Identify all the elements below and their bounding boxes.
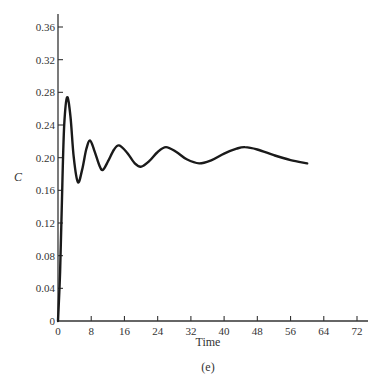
y-tick-label: 0.12	[36, 217, 55, 229]
figure-caption: (e)	[201, 360, 214, 374]
x-tick-label: 72	[352, 325, 363, 337]
y-tick-label: 0.20	[36, 152, 56, 164]
y-tick-label: 0.04	[36, 282, 56, 294]
y-tick-label: 0.16	[36, 184, 56, 196]
x-tick-label: 64	[318, 325, 330, 337]
x-axis-label: Time	[196, 335, 221, 349]
y-tick-label: 0.24	[36, 119, 56, 131]
x-tick-label: 16	[119, 325, 131, 337]
y-tick-label: 0.08	[36, 250, 56, 262]
x-tick-label: 48	[252, 325, 264, 337]
x-tick-label: 8	[88, 325, 94, 337]
x-tick-label: 0	[55, 325, 61, 337]
chart: 00.040.080.120.160.200.240.280.320.36 08…	[0, 0, 384, 382]
y-tick-label: 0.36	[36, 21, 56, 33]
y-axis-label: C	[14, 170, 23, 184]
data-line-c	[58, 97, 307, 321]
x-axis-ticks: 081624324048566472	[55, 316, 362, 337]
x-tick-label: 24	[152, 325, 164, 337]
y-tick-label: 0.28	[36, 86, 56, 98]
y-tick-label: 0.32	[36, 54, 55, 66]
x-tick-label: 56	[285, 325, 297, 337]
